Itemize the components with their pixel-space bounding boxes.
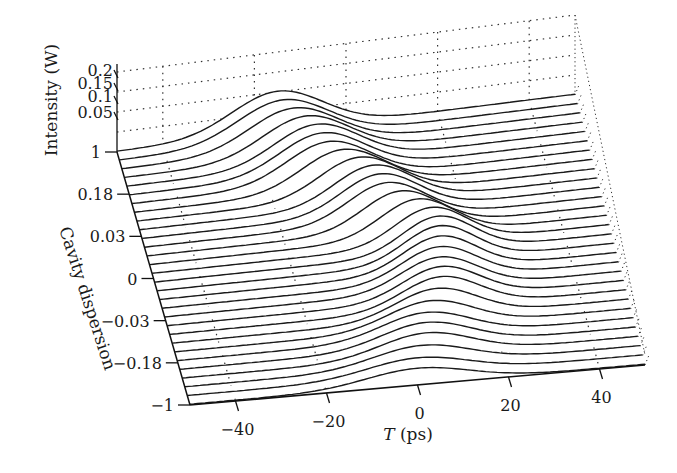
x-axis-title: T (ps) — [383, 424, 433, 444]
y-tick-label: 0 — [127, 270, 137, 289]
waterfall-chart: 0.20.150.10.0510.180.030−0.03−0.18−1−40−… — [0, 0, 677, 473]
z-tick-label: 0.05 — [77, 103, 113, 122]
z-axis-title: Intensity (W) — [41, 44, 61, 156]
y-tick-label: 0.03 — [90, 227, 126, 246]
plot-area: 0.20.150.10.0510.180.030−0.03−0.18−1−40−… — [0, 0, 677, 473]
x-tick-label: 20 — [500, 396, 520, 415]
y-tick-label: −1 — [150, 396, 174, 415]
trace-lines — [117, 91, 645, 407]
y-tick-label: 1 — [91, 143, 101, 162]
x-tick-label: −20 — [312, 412, 346, 431]
x-tick-label: −40 — [221, 420, 255, 439]
x-tick-label: 40 — [591, 388, 611, 407]
y-tick-label: 0.18 — [78, 185, 114, 204]
x-tick-label: 0 — [414, 404, 424, 423]
